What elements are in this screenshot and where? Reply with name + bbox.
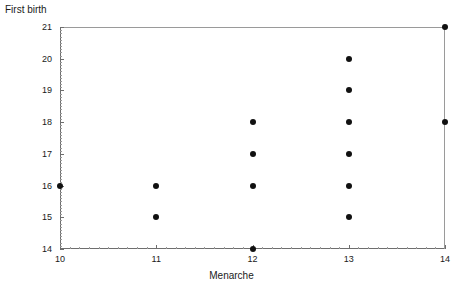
y-tick-major <box>60 154 64 155</box>
data-point <box>346 56 352 62</box>
y-tick-minor <box>60 125 62 126</box>
y-tick-minor <box>60 71 62 72</box>
y-tick-minor <box>60 163 62 164</box>
data-point <box>442 24 448 30</box>
y-tick-label: 17 <box>0 149 52 159</box>
y-tick-minor <box>60 151 62 152</box>
plot-frame-right <box>444 27 445 249</box>
x-tick-minor <box>224 247 225 249</box>
x-tick-minor <box>262 247 263 249</box>
x-tick-minor <box>195 247 196 249</box>
data-point <box>346 87 352 93</box>
x-tick-minor <box>320 247 321 249</box>
y-tick-minor <box>60 170 62 171</box>
x-tick-minor <box>233 247 234 249</box>
y-tick-minor <box>60 205 62 206</box>
y-tick-label: 14 <box>0 244 52 254</box>
y-tick-label: 19 <box>0 85 52 95</box>
x-tick-minor <box>339 247 340 249</box>
x-tick-minor <box>407 247 408 249</box>
y-tick-minor <box>60 81 62 82</box>
y-tick-major <box>60 59 64 60</box>
y-tick-minor <box>60 84 62 85</box>
y-tick-major <box>60 217 64 218</box>
y-tick-label: 21 <box>0 22 52 32</box>
y-tick-minor <box>60 208 62 209</box>
data-point <box>250 151 256 157</box>
x-tick-minor <box>368 247 369 249</box>
y-tick-minor <box>60 56 62 57</box>
data-point <box>250 246 256 252</box>
x-tick-major <box>445 245 446 249</box>
y-tick-minor <box>60 65 62 66</box>
y-tick-label: 16 <box>0 181 52 191</box>
y-tick-minor <box>60 214 62 215</box>
y-tick-minor <box>60 97 62 98</box>
y-tick-major <box>60 90 64 91</box>
y-tick-minor <box>60 106 62 107</box>
y-tick-minor <box>60 49 62 50</box>
x-tick-minor <box>204 247 205 249</box>
x-tick-minor <box>378 247 379 249</box>
data-point <box>153 214 159 220</box>
y-tick-minor <box>60 52 62 53</box>
y-tick-minor <box>60 243 62 244</box>
y-tick-minor <box>60 189 62 190</box>
x-tick-minor <box>147 247 148 249</box>
y-tick-minor <box>60 116 62 117</box>
x-tick-label: 12 <box>247 254 257 264</box>
y-tick-minor <box>60 119 62 120</box>
y-tick-minor <box>60 144 62 145</box>
y-tick-minor <box>60 230 62 231</box>
x-tick-minor <box>89 247 90 249</box>
y-tick-major <box>60 249 64 250</box>
y-tick-minor <box>60 46 62 47</box>
y-tick-minor <box>60 135 62 136</box>
y-tick-minor <box>60 109 62 110</box>
x-tick-minor <box>435 247 436 249</box>
x-tick-minor <box>397 247 398 249</box>
data-point <box>346 183 352 189</box>
y-tick-minor <box>60 233 62 234</box>
x-tick-label: 14 <box>440 254 450 264</box>
y-tick-minor <box>60 40 62 41</box>
x-tick-minor <box>358 247 359 249</box>
y-tick-minor <box>60 173 62 174</box>
x-tick-minor <box>118 247 119 249</box>
y-tick-minor <box>60 157 62 158</box>
data-point <box>57 183 63 189</box>
y-tick-minor <box>60 103 62 104</box>
data-point <box>153 183 159 189</box>
y-tick-minor <box>60 141 62 142</box>
plot-area <box>60 27 445 249</box>
x-tick-minor <box>108 247 109 249</box>
y-tick-minor <box>60 198 62 199</box>
y-tick-minor <box>60 195 62 196</box>
y-tick-minor <box>60 176 62 177</box>
y-tick-minor <box>60 78 62 79</box>
x-tick-minor <box>127 247 128 249</box>
data-point <box>346 119 352 125</box>
y-tick-minor <box>60 43 62 44</box>
y-tick-minor <box>60 227 62 228</box>
y-tick-minor <box>60 192 62 193</box>
y-tick-minor <box>60 224 62 225</box>
x-tick-label: 13 <box>344 254 354 264</box>
y-tick-minor <box>60 132 62 133</box>
y-tick-label: 18 <box>0 117 52 127</box>
y-tick-minor <box>60 68 62 69</box>
y-tick-minor <box>60 211 62 212</box>
x-tick-minor <box>330 247 331 249</box>
x-tick-minor <box>70 247 71 249</box>
x-tick-minor <box>99 247 100 249</box>
x-tick-minor <box>416 247 417 249</box>
y-tick-major <box>60 27 64 28</box>
x-tick-minor <box>310 247 311 249</box>
y-tick-label: 20 <box>0 54 52 64</box>
x-tick-minor <box>166 247 167 249</box>
x-tick-minor <box>243 247 244 249</box>
y-tick-minor <box>60 236 62 237</box>
x-tick-major <box>156 245 157 249</box>
y-tick-minor <box>60 160 62 161</box>
y-tick-major <box>60 122 64 123</box>
